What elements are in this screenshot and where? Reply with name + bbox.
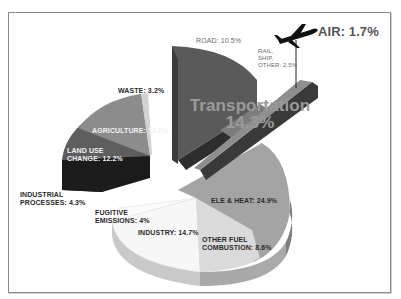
label-land-use: LAND USE CHANGE: 12.2% — [67, 147, 123, 163]
label-other-fuel: OTHER FUEL COMBUSTION: 8.6% — [202, 236, 272, 252]
label-industry: INDUSTRY: 14.7% — [138, 229, 199, 237]
airplane-icon — [274, 24, 318, 48]
label-rail: RAIL, SHIP, OTHER: 2.5% — [258, 48, 297, 69]
label-air: AIR: 1.7% — [318, 25, 379, 39]
label-waste: WASTE: 3.2% — [118, 87, 164, 95]
label-ele-heat: ELE & HEAT: 24.9% — [211, 197, 277, 205]
label-transportation: Transportation 14.3% — [180, 97, 320, 131]
label-road: ROAD: 10.5% — [196, 37, 241, 45]
land-pie — [62, 93, 152, 192]
label-agriculture: AGRICULTURE: 13.8% — [92, 127, 168, 135]
label-industrial-processes: INDUSTRIAL PROCESSES: 4.3% — [20, 191, 85, 207]
label-fugitive: FUGITIVE EMISSIONS: 4% — [95, 209, 150, 225]
